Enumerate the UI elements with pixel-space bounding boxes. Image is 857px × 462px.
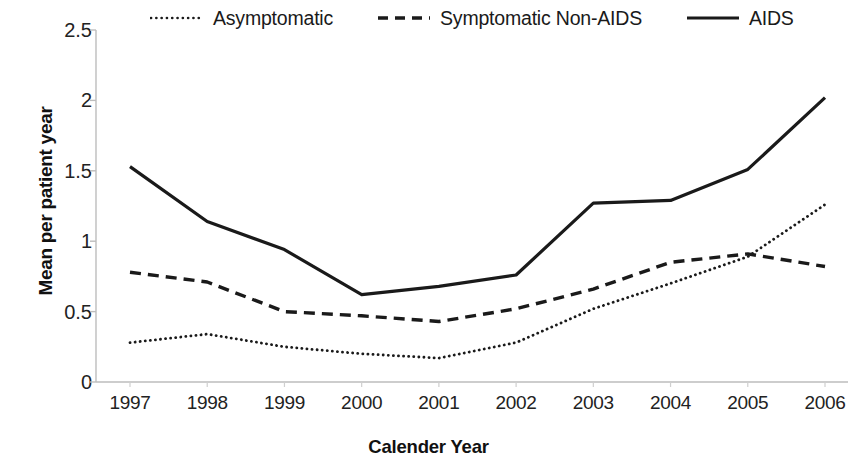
axis-lines [96, 30, 848, 382]
x-tick-label: 2004 [631, 392, 711, 414]
x-axis-ticks [130, 382, 825, 387]
x-tick-label: 1999 [244, 392, 324, 414]
x-axis-title: Calender Year [0, 436, 857, 458]
x-axis-tick-labels: 1997199819992000200120022003200420052006 [0, 392, 857, 422]
x-tick-label: 2001 [399, 392, 479, 414]
y-axis-ticks [90, 30, 96, 382]
x-tick-label: 2006 [785, 392, 857, 414]
x-tick-label: 2005 [708, 392, 788, 414]
series-line-symptomatic-non-aids [130, 254, 825, 322]
series-line-aids [130, 98, 825, 295]
x-tick-label: 2002 [476, 392, 556, 414]
series-lines [130, 98, 825, 359]
x-tick-label: 1998 [167, 392, 247, 414]
line-chart-figure: Asymptomatic Symptomatic Non-AIDS AIDS M… [0, 0, 857, 462]
x-tick-label: 1997 [90, 392, 170, 414]
x-tick-label: 2003 [553, 392, 633, 414]
x-tick-label: 2000 [322, 392, 402, 414]
